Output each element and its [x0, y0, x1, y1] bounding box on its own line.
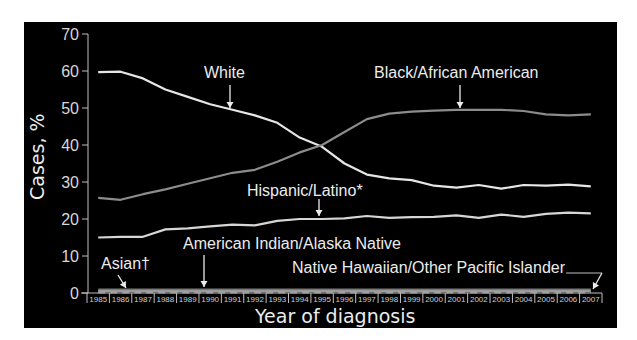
x-tick-label: 1990: [201, 295, 219, 304]
y-tick-label: 50: [61, 100, 79, 117]
series-line-white: [98, 72, 591, 189]
label-black: Black/African American: [374, 64, 539, 81]
line-chart: 0102030405060701985198619871988198919901…: [0, 0, 637, 340]
label-nhopi: Native Hawaiian/Other Pacific Islander: [292, 259, 566, 276]
x-tick-label: 1998: [380, 295, 398, 304]
x-tick-label: 1985: [89, 295, 107, 304]
x-tick-label: 2004: [515, 295, 533, 304]
label-hispanic: Hispanic/Latino*: [247, 182, 363, 199]
y-tick-label: 40: [61, 137, 79, 154]
x-tick-label: 1997: [358, 295, 376, 304]
label-aian: American Indian/Alaska Native: [183, 235, 401, 252]
series-line-hispanic-latino: [98, 213, 591, 238]
y-tick-label: 60: [61, 63, 79, 80]
x-tick-label: 2000: [425, 295, 443, 304]
y-axis-title: Cases, %: [26, 113, 48, 200]
x-tick-label: 1989: [179, 295, 197, 304]
y-tick-label: 70: [61, 26, 79, 43]
y-tick-label: 30: [61, 174, 79, 191]
x-tick-label: 2001: [448, 295, 466, 304]
x-tick-label: 1994: [291, 295, 309, 304]
x-tick-label: 1986: [112, 295, 130, 304]
x-tick-label: 2006: [560, 295, 578, 304]
y-tick-label: 0: [70, 285, 79, 302]
x-tick-label: 1996: [336, 295, 354, 304]
x-tick-label: 2007: [582, 295, 600, 304]
y-tick-label: 10: [61, 248, 79, 265]
y-tick-label: 20: [61, 211, 79, 228]
x-tick-label: 2003: [492, 295, 510, 304]
x-tick-label: 1992: [246, 295, 264, 304]
x-tick-label: 1993: [268, 295, 286, 304]
arrow-black-icon-head: [457, 102, 464, 108]
x-tick-label: 2005: [537, 295, 555, 304]
x-axis-title: Year of diagnosis: [254, 305, 415, 327]
x-tick-label: 2002: [470, 295, 488, 304]
arrow-aian-icon-head: [201, 281, 208, 287]
arrow-white-icon-head: [227, 102, 234, 108]
x-tick-label: 1999: [403, 295, 421, 304]
label-white: White: [204, 64, 245, 81]
annotations: White Black/African American Hispanic/La…: [26, 64, 602, 327]
x-tick-label: 1995: [313, 295, 331, 304]
x-tick-label: 1987: [134, 295, 152, 304]
label-asian: Asian†: [101, 255, 150, 272]
arrow-hispanic-icon-head: [316, 210, 323, 216]
x-tick-label: 1991: [224, 295, 242, 304]
x-tick-label: 1988: [156, 295, 174, 304]
